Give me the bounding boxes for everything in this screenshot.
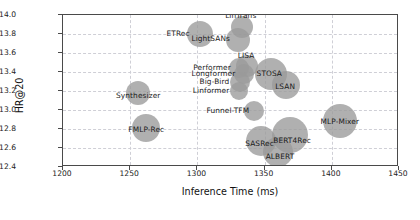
x-tick-mark [398, 166, 399, 170]
point-label: FMLP-Rec [128, 125, 164, 134]
x-tick-label: 1300 [187, 169, 206, 178]
x-tick-mark [264, 166, 265, 170]
gridline-horizontal [63, 148, 397, 149]
x-axis-title: Inference Time (ms) [62, 186, 398, 197]
point-label: LSAN [275, 82, 295, 91]
y-tick-mark [58, 71, 62, 72]
x-tick-mark [129, 166, 130, 170]
y-tick-mark [58, 33, 62, 34]
y-tick-label: 12.6 [0, 143, 16, 152]
point-label: Funnel-TFM [207, 105, 250, 114]
x-tick-label: 1350 [254, 169, 273, 178]
x-tick-mark [196, 166, 197, 170]
gridline-vertical [332, 15, 333, 165]
point-label: STOSA [257, 68, 282, 77]
y-tick-mark [58, 109, 62, 110]
point-label: Big-Bird [200, 76, 230, 85]
x-tick-label: 1400 [321, 169, 340, 178]
y-tick-label: 12.4 [0, 162, 16, 171]
x-tick-label: 1450 [388, 169, 407, 178]
x-tick-label: 1200 [52, 169, 71, 178]
point-label: ALBERT [266, 151, 295, 160]
point-label: SASRec [245, 139, 274, 148]
x-tick-mark [331, 166, 332, 170]
point-label: BERT4Rec [273, 135, 311, 144]
y-tick-label: 14.0 [0, 10, 16, 19]
point-label: MLP-Mixer [321, 117, 360, 126]
y-tick-mark [58, 147, 62, 148]
bubble-chart-figure: ETRecLinTransLightSANsPerformerLISALongf… [0, 0, 420, 220]
y-tick-mark [58, 90, 62, 91]
y-axis-title: HR@20 [14, 51, 25, 141]
y-tick-label: 13.8 [0, 29, 16, 38]
bubble-point [230, 82, 248, 100]
point-label: LinTrans [225, 14, 256, 20]
point-label: LISA [238, 51, 255, 60]
point-label: Synthesizer [116, 90, 160, 99]
point-label: LightSANs [191, 33, 230, 42]
point-label: Linformer [193, 86, 230, 95]
point-label: ETRec [167, 29, 190, 38]
y-tick-mark [58, 128, 62, 129]
y-tick-mark [58, 14, 62, 15]
gridline-horizontal [63, 53, 397, 54]
x-tick-label: 1250 [120, 169, 139, 178]
x-tick-mark [62, 166, 63, 170]
y-tick-mark [58, 52, 62, 53]
plot-area: ETRecLinTransLightSANsPerformerLISALongf… [62, 14, 398, 166]
